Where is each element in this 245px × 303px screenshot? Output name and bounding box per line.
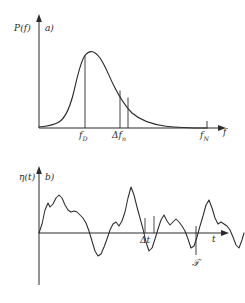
band-frequency-label-main: Δf bbox=[112, 130, 122, 140]
spectrum-curve bbox=[39, 52, 207, 128]
band-frequency-label: Δfn bbox=[112, 131, 126, 142]
panel-a-y-axis-label: P(f) bbox=[14, 24, 31, 33]
panel-a-y-axis-arrowhead bbox=[36, 14, 42, 22]
panel-b-svg bbox=[0, 160, 245, 303]
panel-b-y-axis-arrowhead bbox=[36, 166, 42, 174]
band-frequency-label-sub: n bbox=[122, 135, 126, 142]
panel-b-x-axis-label: t bbox=[212, 235, 216, 244]
sampling-interval-label: Δt bbox=[140, 236, 150, 245]
panel-b-tag: b) bbox=[45, 173, 54, 182]
panel-b-y-axis-label: η(t) bbox=[19, 173, 35, 182]
panel-a-spectrum: P(f) a) fD Δfn fN f bbox=[0, 0, 245, 160]
timeseries-curve bbox=[39, 187, 244, 256]
peak-frequency-label-sub: D bbox=[82, 135, 87, 142]
nyquist-frequency-label-sub: N bbox=[203, 135, 209, 142]
panel-a-tag: a) bbox=[45, 24, 54, 33]
nyquist-frequency-label: fN bbox=[200, 131, 209, 142]
panel-a-x-axis-label: f bbox=[223, 128, 226, 137]
panel-b-x-axis-arrowhead bbox=[221, 230, 229, 236]
record-length-label: 𝒯 bbox=[192, 258, 199, 268]
figure-container: P(f) a) fD Δfn fN f η(t) b) Δt 𝒯 bbox=[0, 0, 245, 303]
peak-frequency-label: fD bbox=[79, 131, 88, 142]
panel-b-timeseries: η(t) b) Δt 𝒯 t bbox=[0, 160, 245, 303]
